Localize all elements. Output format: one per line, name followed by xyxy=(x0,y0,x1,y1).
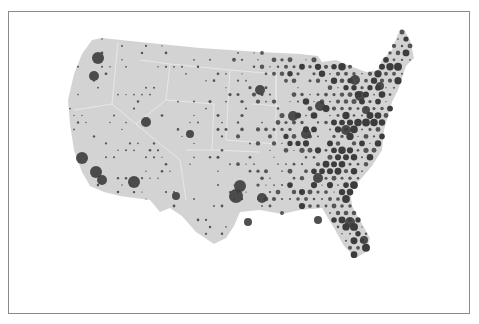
population-dot xyxy=(69,108,71,110)
population-dot xyxy=(392,44,396,48)
population-dot xyxy=(257,59,259,61)
population-dot xyxy=(237,80,239,82)
population-dot xyxy=(77,121,79,123)
population-dot xyxy=(272,128,275,131)
population-dot xyxy=(276,190,281,195)
population-dot xyxy=(341,233,343,235)
city-hotspot xyxy=(288,111,298,121)
population-dot xyxy=(308,148,313,153)
population-dot xyxy=(344,211,349,216)
population-dot xyxy=(340,204,344,208)
population-dot xyxy=(245,80,247,82)
population-dot xyxy=(217,156,220,159)
population-dot xyxy=(338,147,345,154)
population-dot xyxy=(260,176,264,180)
population-dot xyxy=(336,72,340,76)
population-dot xyxy=(97,184,100,187)
city-hotspot xyxy=(128,176,140,188)
city-hotspot xyxy=(355,91,365,101)
population-dot xyxy=(269,191,271,193)
population-dot xyxy=(97,87,99,89)
city-hotspot xyxy=(341,125,351,135)
population-dot xyxy=(397,38,399,40)
population-dot xyxy=(313,101,314,102)
city-hotspot xyxy=(313,173,323,183)
population-dot xyxy=(336,211,341,216)
population-dot xyxy=(375,99,381,105)
population-dot xyxy=(240,100,243,103)
population-dot xyxy=(293,163,296,166)
population-dot xyxy=(403,49,410,56)
population-dot xyxy=(256,141,260,145)
population-dot xyxy=(324,190,328,194)
population-dot xyxy=(145,156,147,158)
city-hotspot xyxy=(257,193,267,203)
population-dot xyxy=(268,134,272,138)
city-hotspot xyxy=(92,52,104,64)
population-dot xyxy=(370,119,378,127)
population-dot xyxy=(245,164,246,165)
population-dot xyxy=(297,101,299,103)
population-dot xyxy=(344,99,349,104)
population-dot xyxy=(213,205,215,207)
population-dot xyxy=(353,114,356,117)
population-dot xyxy=(369,143,370,144)
population-dot xyxy=(350,181,358,189)
city-hotspot xyxy=(376,82,384,90)
population-dot xyxy=(137,100,139,102)
population-dot xyxy=(252,93,256,97)
population-dot xyxy=(277,163,279,165)
population-dot xyxy=(296,197,300,201)
population-dot xyxy=(327,155,332,160)
population-dot xyxy=(253,163,255,165)
city-hotspot xyxy=(97,175,107,185)
population-dot xyxy=(161,157,162,158)
population-dot xyxy=(376,127,381,132)
population-dot xyxy=(401,73,403,75)
population-dot xyxy=(375,112,382,119)
population-dot xyxy=(342,195,350,203)
population-dot xyxy=(347,189,354,196)
population-dot xyxy=(304,169,308,173)
population-dot xyxy=(217,184,219,186)
population-dot xyxy=(344,169,348,173)
population-dot xyxy=(336,99,340,103)
population-dot xyxy=(300,176,304,180)
population-dot xyxy=(297,87,298,88)
population-dot xyxy=(317,93,320,96)
population-dot xyxy=(317,136,319,138)
population-dot xyxy=(285,163,287,165)
population-dot xyxy=(292,120,296,124)
population-dot xyxy=(225,73,227,75)
population-dot xyxy=(339,216,346,223)
population-dot xyxy=(324,93,328,97)
population-dot xyxy=(305,59,306,60)
population-dot xyxy=(300,93,304,97)
city-hotspot xyxy=(255,85,265,95)
population-dot xyxy=(269,205,272,208)
population-dot xyxy=(141,177,143,179)
population-dot xyxy=(299,64,305,70)
population-dot xyxy=(225,226,227,228)
population-dot xyxy=(359,141,365,147)
population-dot xyxy=(280,211,284,215)
population-dot xyxy=(361,73,363,75)
population-dot xyxy=(189,122,190,123)
population-dot xyxy=(125,94,126,95)
population-dot xyxy=(332,176,337,181)
population-dot xyxy=(269,94,271,96)
population-dot xyxy=(305,156,307,158)
population-dot xyxy=(331,120,337,126)
population-dot xyxy=(197,66,199,68)
population-dot xyxy=(299,148,304,153)
population-dot xyxy=(213,79,216,82)
population-dot xyxy=(332,107,336,111)
population-dot xyxy=(394,77,401,84)
population-dot xyxy=(342,112,349,119)
population-dot xyxy=(368,100,371,103)
population-dot xyxy=(300,121,303,124)
population-dot xyxy=(335,154,341,160)
city-hotspot xyxy=(172,192,180,200)
population-dot xyxy=(355,217,360,222)
population-dot xyxy=(352,211,357,216)
